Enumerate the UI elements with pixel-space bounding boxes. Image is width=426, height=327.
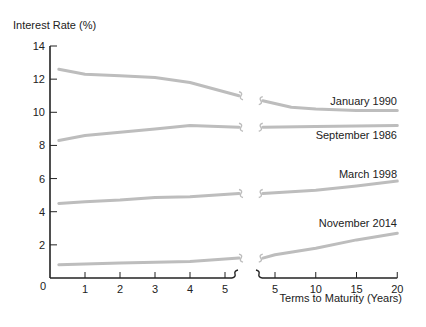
y-tick-label: 4 (39, 206, 45, 218)
series-label-january-1990: January 1990 (330, 95, 397, 107)
series-label-march-1998: March 1998 (339, 168, 397, 180)
series-line-november-2014-left (59, 258, 239, 265)
yield-curve-chart: 02468101214 123455101520 January 1990Sep… (0, 0, 426, 327)
y-axis: 02468101214 (33, 40, 57, 292)
y-tick-label: 2 (39, 239, 45, 251)
x-tick-label: 1 (82, 283, 88, 295)
series-label-september-1986: September 1986 (316, 129, 397, 141)
series-line-september-1986-right (263, 126, 398, 128)
y-tick-label: 10 (33, 106, 45, 118)
y-tick-label: 0 (40, 280, 46, 292)
series-line-january-1990-left (59, 69, 239, 96)
y-tick-label: 6 (39, 173, 45, 185)
x-tick-label: 4 (187, 283, 193, 295)
x-axis-title: Terms to Maturity (Years) (280, 292, 402, 304)
series-line-september-1986-left (59, 126, 239, 141)
x-tick-label: 5 (272, 283, 278, 295)
series-line-november-2014-right (263, 233, 398, 258)
series-label-november-2014: November 2014 (319, 217, 397, 229)
y-tick-label: 14 (33, 40, 45, 52)
series-labels: January 1990September 1986March 1998Nove… (316, 95, 397, 229)
series-line-march-1998-left (59, 194, 239, 204)
series-line-march-1998-right (263, 181, 398, 193)
axis-break-icon (232, 270, 238, 278)
y-axis-title: Interest Rate (%) (13, 19, 96, 31)
y-tick-label: 8 (39, 139, 45, 151)
x-tick-label: 2 (117, 283, 123, 295)
x-tick-label: 3 (152, 283, 158, 295)
y-tick-label: 12 (33, 73, 45, 85)
x-tick-label: 5 (222, 283, 228, 295)
axis-break-icon (256, 270, 262, 278)
